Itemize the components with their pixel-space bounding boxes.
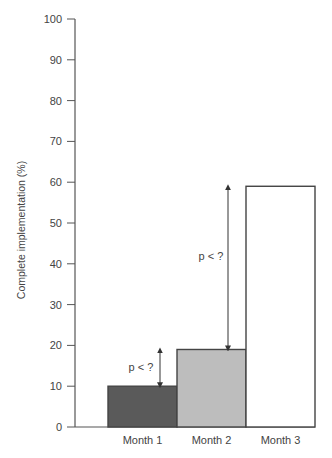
bars (108, 186, 315, 427)
x-category-label: Month 3 (261, 434, 301, 446)
bar-month-3 (246, 186, 315, 427)
y-tick-label: 0 (56, 421, 62, 433)
p-value-label: p < ? (129, 361, 154, 373)
y-tick-label: 90 (50, 54, 62, 66)
y-tick-label: 70 (50, 135, 62, 147)
y-tick-label: 60 (50, 176, 62, 188)
y-axis-label: Complete implementation (%) (15, 161, 27, 299)
y-tick-label: 10 (50, 380, 62, 392)
p-value-label: p < ? (199, 250, 224, 262)
x-category-label: Month 1 (123, 434, 163, 446)
bar-chart: 0102030405060708090100 Complete implemen… (0, 0, 332, 458)
y-tick-label: 20 (50, 339, 62, 351)
y-tick-label: 30 (50, 299, 62, 311)
y-tick-label: 80 (50, 95, 62, 107)
x-category-label: Month 2 (192, 434, 232, 446)
y-tick-label: 100 (44, 13, 62, 25)
y-tick-label: 40 (50, 258, 62, 270)
y-tick-label: 50 (50, 217, 62, 229)
bar-month-1 (108, 386, 177, 427)
bar-month-2 (177, 349, 246, 427)
x-axis-categories: Month 1Month 2Month 3 (123, 434, 301, 446)
